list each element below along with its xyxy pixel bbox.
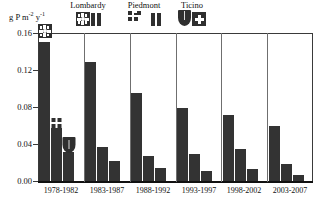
y-axis-unit-label: g P m-2 y-1 [9, 11, 45, 22]
legend-swatches-lombardy [56, 11, 120, 26]
x-axis-tick-label: 1993-1997 [176, 186, 222, 195]
x-axis-tick-label: 1978-1982 [38, 186, 84, 195]
legend-bar-swatch [97, 13, 101, 26]
swiss-cross-icon [192, 12, 206, 26]
bar-ticino [155, 168, 166, 181]
bar-lombardy [39, 42, 50, 181]
y-axis-tick [33, 107, 38, 108]
legend-item-ticino: Ticino [160, 1, 224, 26]
x-axis-tick-label: 1998-2002 [221, 186, 267, 195]
bar-piedmont [97, 147, 108, 181]
bar-lombardy [269, 126, 280, 182]
category-separator [221, 33, 222, 182]
bar-group [39, 33, 74, 181]
x-axis-tick-label: 1988-1992 [130, 186, 176, 195]
y-axis-tick [33, 181, 38, 182]
bar-group [177, 33, 212, 181]
bar-piedmont [143, 156, 154, 181]
bar-piedmont [189, 154, 200, 181]
bar-ticino [293, 175, 304, 181]
bar-piedmont [235, 149, 246, 181]
bar-ticino [109, 161, 120, 181]
y-axis-tick-label: 0.04 [2, 139, 32, 149]
bar-lombardy [85, 62, 96, 181]
bar-group [85, 33, 120, 181]
y-axis-tick-label: 0.08 [2, 102, 32, 112]
bar-lombardy [223, 115, 234, 181]
bar-lombardy [131, 93, 142, 181]
legend-bar-swatch [91, 13, 95, 26]
ticino-shield-icon [62, 137, 75, 152]
lombardy-rose-icon [38, 24, 52, 38]
bar-piedmont [281, 164, 292, 181]
axis-frame-right [312, 33, 313, 182]
y-axis-tick [33, 144, 38, 145]
legend-bar-swatch [151, 13, 155, 26]
bar-piedmont [51, 128, 62, 181]
y-axis-tick-label: 0.00 [2, 176, 32, 186]
bar-lombardy [177, 108, 188, 181]
plot-area: 0.160.120.080.040.00 1978-19821983-19871… [38, 33, 313, 182]
y-axis-tick-label: 0.12 [2, 65, 32, 75]
piedmont-checkered-icon [51, 115, 62, 126]
y-axis-tick-label: 0.16 [2, 28, 32, 38]
legend-item-lombardy: Lombardy [56, 1, 120, 26]
legend-label-ticino: Ticino [160, 1, 224, 10]
y-axis-tick [33, 70, 38, 71]
category-separator [267, 33, 268, 182]
x-axis-tick-label: 1983-1987 [84, 186, 130, 195]
bar-group [223, 33, 258, 181]
legend-swatches-ticino [160, 11, 224, 26]
x-axis-tick-label: 2003-2007 [267, 186, 313, 195]
bar-ticino [63, 152, 74, 181]
bar-ticino [247, 169, 258, 181]
piedmont-checkered-icon [128, 11, 150, 26]
ticino-shield-icon [178, 10, 191, 26]
bar-ticino [201, 171, 212, 181]
bar-group [269, 33, 304, 181]
lombardy-rose-icon [76, 12, 90, 26]
legend-label-lombardy: Lombardy [56, 1, 120, 10]
bar-group [131, 33, 166, 181]
phosphorus-loading-bar-chart: Lombardy Piedmont [0, 0, 325, 210]
